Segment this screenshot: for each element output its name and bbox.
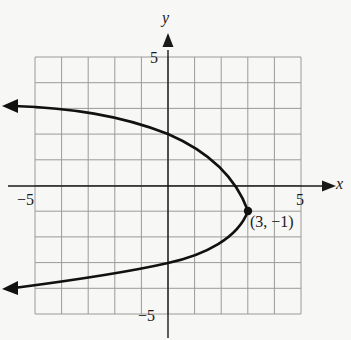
- x-min-tick-label: −5: [17, 192, 34, 208]
- x-axis-arrow-icon: [322, 181, 336, 192]
- parabola-curve: [2, 99, 248, 295]
- coordinate-plane: [0, 0, 351, 340]
- y-axis-arrow-icon: [163, 33, 174, 47]
- lower-branch-arrow-icon: [2, 281, 18, 295]
- y-max-tick-label: 5: [150, 50, 158, 66]
- upper-branch-arrow-icon: [2, 99, 18, 113]
- x-axis-label: x: [336, 176, 343, 192]
- y-axis-label: y: [162, 10, 169, 26]
- x-axis: [8, 181, 336, 192]
- y-min-tick-label: −5: [138, 308, 155, 324]
- vertex-label: (3, −1): [250, 214, 294, 230]
- x-max-tick-label: 5: [296, 192, 304, 208]
